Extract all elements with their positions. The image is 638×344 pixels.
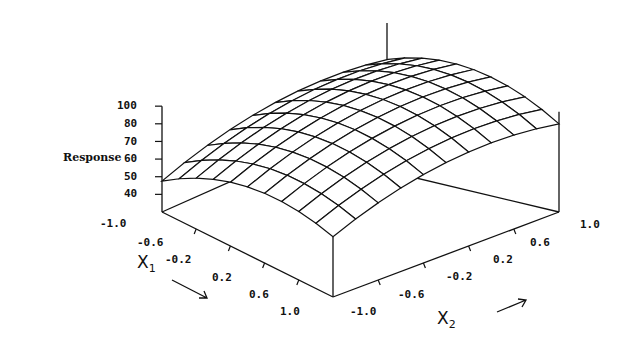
- x1-tick: [228, 246, 230, 251]
- z-tick-label: 50: [124, 171, 137, 183]
- x2-tick-label: 1.0: [580, 219, 600, 231]
- z-tick-label: 40: [124, 188, 137, 200]
- x1-tick: [297, 280, 299, 285]
- z-tick-label: 70: [124, 136, 137, 148]
- x2-tick: [423, 263, 425, 268]
- x2-tick: [378, 280, 380, 285]
- x1-subscript: 1: [149, 262, 156, 275]
- x1-tick-label: -0.2: [165, 254, 192, 266]
- z-tick-label: 80: [124, 118, 137, 130]
- x2-tick-label: -1.0: [350, 306, 377, 318]
- x2-tick-label: -0.2: [446, 271, 473, 283]
- surface-mesh: [162, 58, 559, 237]
- x2-axis-title: X2: [437, 312, 456, 331]
- x1-tick-label: 0.6: [249, 289, 269, 301]
- x1-tick-label: 1.0: [280, 306, 300, 318]
- x1-arrow-icon: [172, 280, 207, 298]
- x1-tick-label: -1.0: [100, 218, 127, 230]
- x1-tick-label: -0.6: [137, 237, 164, 249]
- x1-axis-title: X1: [137, 256, 156, 275]
- x2-tick: [469, 246, 471, 251]
- x2-tick: [514, 229, 516, 234]
- x1-tick: [194, 229, 196, 234]
- x2-tick-label: -0.6: [398, 289, 425, 301]
- x1-tick-label: 0.2: [212, 272, 232, 284]
- z-tick-label: 100: [117, 100, 137, 112]
- axis-arrows: [172, 280, 526, 312]
- x2-tick-label: 0.2: [493, 254, 513, 266]
- x2-axis-line: [333, 212, 559, 297]
- x1-name: X: [137, 252, 149, 272]
- z-tick-label: 60: [124, 153, 137, 165]
- x2-arrow-icon: [497, 299, 526, 312]
- x1-tick: [263, 263, 265, 268]
- x2-subscript: 2: [449, 318, 456, 331]
- x2-name: X: [437, 308, 449, 328]
- x2-tick-label: 0.6: [530, 237, 550, 249]
- z-axis-title: Response: [63, 152, 122, 164]
- surface-plot: [0, 0, 638, 344]
